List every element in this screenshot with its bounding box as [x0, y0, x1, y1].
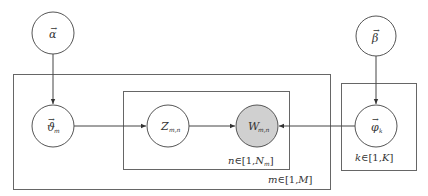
- node-beta-label: β: [371, 32, 378, 45]
- node-theta-subscript: m: [54, 127, 60, 134]
- node-z-subscript: m,n: [169, 126, 181, 133]
- node-w-subscript: m,n: [258, 126, 270, 133]
- plate-topic-label: k∈[1,K]: [355, 152, 393, 163]
- plate-outer-label: m∈[1,M]: [268, 174, 313, 185]
- node-z-label: Z: [160, 120, 169, 133]
- lda-plate-diagram: → α → β → ϑ m Z m,n W m,n → φ k n∈[1,Nm]…: [0, 0, 428, 196]
- node-z: Z m,n: [147, 105, 189, 147]
- node-alpha: → α: [32, 12, 74, 54]
- node-theta: → ϑ m: [32, 105, 74, 147]
- node-w: W m,n: [236, 105, 278, 147]
- node-phi-subscript: k: [379, 127, 383, 134]
- node-phi: → φ k: [355, 105, 397, 147]
- node-beta: → β: [356, 16, 396, 56]
- node-alpha-label: α: [49, 28, 57, 41]
- node-phi-label: φ: [371, 121, 379, 134]
- plate-inner-label: n∈[1,Nm]: [228, 155, 274, 167]
